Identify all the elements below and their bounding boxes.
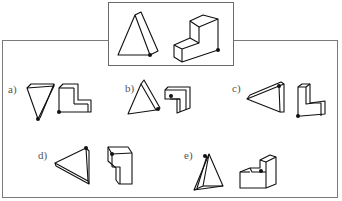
option-d-l-block (108, 147, 132, 184)
option-d-triangle (55, 146, 89, 184)
option-e-triangle (194, 154, 223, 190)
option-e-l-block (240, 155, 276, 188)
option-a-triangle (27, 84, 54, 121)
option-d-label: d) (38, 149, 48, 162)
option-c-triangle (247, 82, 284, 112)
option-b-label: b) (125, 82, 135, 95)
option-b-l-block (165, 87, 190, 113)
puzzle-diagram: a) b) (0, 0, 342, 201)
option-a-label: a) (8, 83, 17, 96)
option-d[interactable]: d) (38, 146, 132, 184)
option-b[interactable]: b) (125, 80, 190, 114)
option-e-label: e) (184, 149, 193, 162)
option-a-l-block (57, 84, 91, 114)
diagram-canvas: a) b) (0, 0, 342, 201)
option-c[interactable]: c) (232, 82, 325, 118)
option-a[interactable]: a) (8, 83, 91, 121)
option-e[interactable]: e) (184, 149, 276, 190)
option-c-label: c) (232, 82, 241, 95)
option-c-l-block (296, 84, 325, 118)
